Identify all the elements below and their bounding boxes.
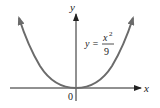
- diagram-canvas: y x 0 y = x 2 9: [0, 0, 160, 108]
- x-axis-label: x: [143, 82, 149, 94]
- parabola-curve-left: [19, 18, 76, 88]
- equation-denominator: 9: [104, 46, 109, 57]
- origin-label: 0: [68, 91, 73, 102]
- y-axis-label: y: [69, 1, 75, 13]
- equation-lhs: y =: [84, 38, 99, 49]
- equation-numerator: x: [102, 32, 108, 43]
- parabola-diagram: y x 0 y = x 2 9: [0, 0, 160, 108]
- equation-exponent: 2: [109, 30, 113, 38]
